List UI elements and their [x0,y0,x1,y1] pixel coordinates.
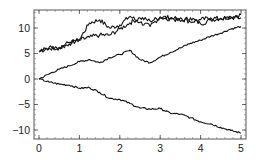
series-line-1 [39,14,241,52]
plot-frame [34,10,246,139]
series-line-2 [39,16,241,51]
y-tick-label: 5 [24,47,30,59]
y-tick-label: −5 [18,98,30,110]
x-tick-label: 0 [36,142,42,154]
y-tick-label: 10 [18,22,30,34]
x-tick-label: 3 [157,142,163,154]
x-tick-label: 5 [238,142,244,154]
y-tick-label: 0 [24,73,30,85]
x-tick-label: 1 [76,142,82,154]
series-lines [39,14,241,133]
x-tick-label: 4 [198,142,204,154]
minor-ticks [34,10,246,139]
line-chart: 012345 −10−50510 [0,0,260,160]
x-axis-ticks: 012345 [36,10,244,154]
series-line-4 [39,79,241,134]
y-tick-label: −10 [12,124,30,136]
x-tick-label: 2 [117,142,123,154]
y-axis-ticks: −10−50510 [12,22,246,136]
series-line-3 [39,27,241,80]
